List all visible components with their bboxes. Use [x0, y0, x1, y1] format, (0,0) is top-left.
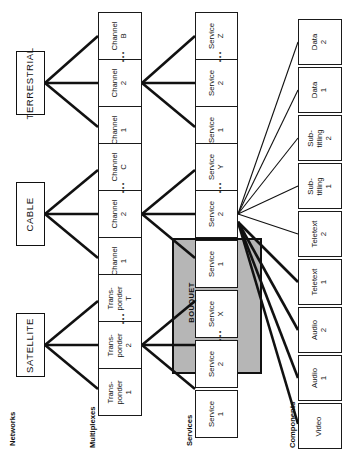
component-line2: 1	[319, 280, 328, 284]
network-label: SATELLITE	[25, 318, 36, 373]
component-line2: titling	[315, 129, 324, 147]
service-label: Service 1	[208, 251, 226, 277]
network-box-terrestrial[interactable]: TERRESTRIAL	[16, 51, 45, 115]
component-line1: Audio	[310, 368, 319, 388]
diagram-canvas: BOUQUET	[0, 0, 356, 451]
multiplex-box-transponder-1[interactable]: Trans- ponder 1	[98, 368, 142, 416]
multiplex-line2: 2	[119, 212, 128, 216]
service-box-t2[interactable]: Service 2	[195, 59, 238, 107]
multiplex-label: Trans- ponder 1	[107, 380, 134, 404]
multiplex-line1: Trans-	[106, 287, 115, 309]
component-label: Sub- titling 2	[307, 129, 334, 147]
network-box-satellite[interactable]: SATELLITE	[16, 313, 45, 377]
caption-networks: Networks	[8, 412, 17, 446]
service-box-s1[interactable]: Service 1	[195, 390, 238, 438]
service-line1: Service	[207, 154, 216, 180]
component-line1: Data	[310, 82, 319, 98]
network-label: TERRESTRIAL	[25, 47, 36, 119]
multiplex-line1: Trans-	[106, 334, 115, 356]
component-label: Teletext 2	[311, 221, 329, 248]
service-line1: Service	[207, 117, 216, 143]
multiplex-label: Channel 1	[111, 246, 129, 275]
service-line2: 2	[216, 81, 225, 85]
component-line1: Data	[310, 34, 319, 50]
multiplex-line3: 2	[123, 343, 132, 347]
caption-components: Components	[288, 402, 297, 448]
component-line1: Video	[315, 416, 324, 436]
service-box-c1[interactable]: Service 1	[195, 240, 238, 288]
bouquet-label: BOUQUET	[187, 281, 196, 325]
service-label: Service 2	[208, 70, 226, 96]
service-line1: Service	[207, 401, 216, 427]
component-line2: 1	[319, 88, 328, 92]
component-line2: 1	[319, 376, 328, 380]
component-label: Data 2	[311, 34, 329, 50]
service-label: Service X	[208, 301, 226, 327]
network-label: CABLE	[25, 197, 36, 231]
ellipsis-svc-cable: ...	[212, 180, 223, 196]
service-label: Service 2	[208, 351, 226, 377]
multiplex-line2: ponder	[115, 380, 124, 404]
component-box-data-1[interactable]: Data 1	[298, 67, 342, 113]
service-box-c2[interactable]: Service 2	[195, 190, 238, 238]
component-line1: Teletext	[310, 269, 319, 296]
component-label: Teletext 1	[311, 269, 329, 296]
component-line1: Sub-	[306, 130, 315, 146]
multiplex-line2: B	[119, 33, 128, 38]
multiplex-line3: 1	[123, 390, 132, 394]
component-line1: Audio	[310, 320, 319, 340]
service-line2: 1	[216, 412, 225, 416]
multiplex-label: Channel C	[111, 152, 129, 181]
component-box-teletext-1[interactable]: Teletext 1	[298, 259, 342, 305]
service-label: Service 2	[208, 201, 226, 227]
component-box-data-2[interactable]: Data 2	[298, 19, 342, 65]
multiplex-line3: T	[123, 296, 132, 301]
service-line1: Service	[207, 70, 216, 96]
service-line1: Service	[207, 23, 216, 49]
multiplex-label: Channel 2	[111, 68, 129, 97]
service-line1: Service	[207, 201, 216, 227]
component-line1: Sub-	[306, 178, 315, 194]
component-box-teletext-2[interactable]: Teletext 2	[298, 211, 342, 257]
caption-services: Services	[185, 415, 194, 446]
multiplex-label: Channel 2	[111, 199, 129, 228]
service-line2: Y	[216, 164, 225, 169]
multiplex-label: Channel B	[111, 21, 129, 50]
multiplex-box-transponder-2[interactable]: Trans- ponder 2	[98, 321, 142, 369]
multiplex-line2: 1	[119, 259, 128, 263]
component-box-audio-2[interactable]: Audio 2	[298, 307, 342, 353]
service-line2: 2	[216, 362, 225, 366]
multiplex-label: Trans- ponder 2	[107, 333, 134, 357]
multiplex-box-channel-c2[interactable]: Channel 2	[98, 190, 142, 238]
multiplex-line2: 1	[119, 128, 128, 132]
network-box-cable[interactable]: CABLE	[16, 182, 45, 246]
ellipsis-mux-terrestrial: ...	[115, 49, 126, 65]
multiplex-line1: Trans-	[106, 381, 115, 403]
service-line2: X	[216, 311, 225, 316]
component-label: Sub- titling 1	[307, 177, 334, 195]
component-label: Audio 1	[311, 368, 329, 388]
service-label: Service 1	[208, 117, 226, 143]
component-line2: 2	[319, 328, 328, 332]
component-line3: 1	[323, 184, 332, 188]
service-box-s2[interactable]: Service 2	[195, 340, 238, 388]
service-line2: Z	[216, 34, 225, 39]
multiplex-line2: ponder	[115, 286, 124, 310]
component-box-video[interactable]: Video	[298, 403, 342, 449]
service-line1: Service	[207, 301, 216, 327]
multiplex-label: Channel 1	[111, 115, 129, 144]
component-box-subtitling-2[interactable]: Sub- titling 2	[298, 115, 342, 161]
ellipsis-svc-terrestrial: ...	[212, 49, 223, 65]
service-label: Service Y	[208, 154, 226, 180]
component-box-audio-1[interactable]: Audio 1	[298, 355, 342, 401]
component-label: Data 1	[311, 82, 329, 98]
component-box-subtitling-1[interactable]: Sub- titling 1	[298, 163, 342, 209]
multiplex-label: Trans- ponder T	[107, 286, 134, 310]
multiplex-line2: C	[119, 164, 128, 170]
component-line2: 2	[319, 232, 328, 236]
service-line2: 1	[216, 128, 225, 132]
multiplex-box-channel-t2[interactable]: Channel 2	[98, 59, 142, 107]
component-label: Audio 2	[311, 320, 329, 340]
service-line2: 2	[216, 212, 225, 216]
service-label: Service 1	[208, 401, 226, 427]
